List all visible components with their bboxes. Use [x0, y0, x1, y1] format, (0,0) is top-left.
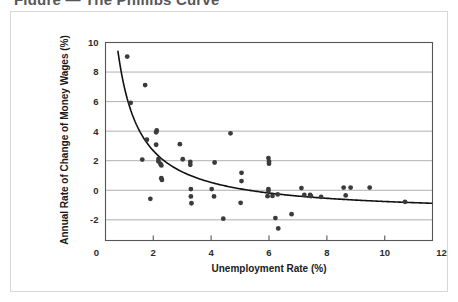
data-point	[266, 189, 271, 194]
data-point	[212, 160, 217, 165]
data-point	[125, 54, 130, 59]
data-point	[238, 200, 243, 205]
data-point	[188, 187, 193, 192]
data-point	[188, 194, 193, 199]
x-tick-label: 2	[151, 247, 156, 258]
data-point	[180, 157, 185, 162]
data-point	[343, 193, 348, 198]
data-point	[302, 193, 307, 198]
x-tick-label: 0	[94, 247, 99, 258]
data-point	[160, 178, 165, 183]
data-point	[239, 170, 244, 175]
data-point	[177, 142, 182, 147]
y-tick-label: 6	[93, 96, 98, 107]
data-point	[140, 157, 145, 162]
data-point	[128, 100, 133, 105]
x-tick-label: 6	[266, 247, 271, 258]
data-point	[228, 131, 233, 136]
scatter-plot-svg: 024681012 -20246810 Unemployment Rate (%…	[0, 0, 458, 302]
x-axis-title: Unemployment Rate (%)	[211, 263, 326, 274]
y-tick-label: 2	[93, 155, 98, 166]
data-point	[239, 179, 244, 184]
data-point	[212, 194, 217, 199]
data-point	[276, 226, 281, 231]
y-tick-label: -2	[90, 214, 98, 225]
y-axis-title: Annual Rate of Change of Money Wages (%)	[59, 35, 70, 245]
phillips-curve-chart: 024681012 -20246810 Unemployment Rate (%…	[0, 0, 458, 302]
x-axis-tick-labels: 024681012	[94, 247, 447, 258]
y-tick-label: 0	[93, 185, 98, 196]
trend-curve	[118, 51, 432, 203]
axis-tick-marks	[153, 236, 385, 241]
x-tick-label: 8	[324, 247, 329, 258]
data-point	[221, 216, 226, 221]
data-point	[143, 83, 148, 88]
data-point	[148, 196, 153, 201]
y-axis-tick-labels: -20246810	[88, 37, 99, 225]
y-tick-label: 10	[88, 37, 99, 48]
data-point	[341, 185, 346, 190]
data-point	[144, 137, 149, 142]
data-point	[299, 186, 304, 191]
data-point	[309, 194, 314, 199]
data-point	[267, 161, 272, 166]
data-point	[403, 199, 408, 204]
x-tick-label: 12	[436, 247, 447, 258]
data-point	[265, 194, 270, 199]
phillips-trend-line	[118, 51, 432, 203]
y-tick-label: 8	[93, 66, 98, 77]
data-point	[159, 163, 164, 168]
data-points	[125, 54, 408, 231]
data-point	[154, 130, 159, 135]
x-tick-label: 4	[208, 247, 214, 258]
data-point	[273, 216, 278, 221]
data-point	[319, 195, 324, 200]
y-tick-label: 4	[93, 126, 99, 137]
data-point	[289, 212, 294, 217]
data-point	[270, 193, 275, 198]
data-point	[367, 185, 372, 190]
data-point	[188, 162, 193, 167]
x-tick-label: 10	[379, 247, 390, 258]
data-point	[275, 192, 280, 197]
data-point	[209, 187, 214, 192]
data-point	[348, 185, 353, 190]
data-point	[189, 201, 194, 206]
data-point	[154, 142, 159, 147]
